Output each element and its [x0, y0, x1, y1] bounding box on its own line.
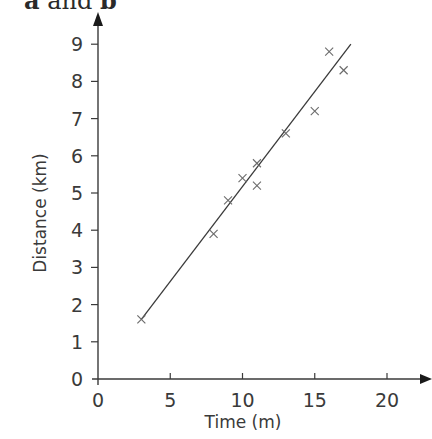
y-tick-label: 8	[71, 70, 83, 92]
y-tick-label: 4	[71, 219, 83, 241]
data-point-x-marker-icon	[137, 315, 145, 323]
x-tick-label: 5	[164, 389, 176, 411]
data-point-x-marker-icon	[224, 196, 232, 204]
data-point-x-marker-icon	[340, 66, 348, 74]
x-tick-label: 0	[92, 389, 104, 411]
y-axis-title: Distance (km)	[30, 153, 50, 272]
y-tick-label: 2	[71, 294, 83, 316]
y-tick-label: 0	[71, 368, 83, 390]
y-tick-label: 1	[71, 331, 83, 353]
x-tick-label: 10	[230, 389, 254, 411]
x-tick-label: 15	[303, 389, 327, 411]
data-point-x-marker-icon	[311, 107, 319, 115]
axes	[92, 12, 432, 385]
x-tick-label: 20	[375, 389, 399, 411]
x-axis-title: Time (m)	[204, 412, 282, 432]
y-tick-label: 9	[71, 33, 83, 55]
y-tick-label: 6	[71, 145, 83, 167]
data-point-x-marker-icon	[253, 182, 261, 190]
x-axis-arrow-icon	[420, 374, 432, 384]
axis-ticks: 012345678905101520	[71, 33, 399, 411]
data-point-x-marker-icon	[325, 48, 333, 56]
scatter-chart: 012345678905101520 Time (m) Distance (km…	[0, 0, 432, 439]
data-point-x-marker-icon	[210, 230, 218, 238]
y-tick-label: 5	[71, 182, 83, 204]
y-tick-label: 3	[71, 256, 83, 278]
data-point-x-marker-icon	[239, 174, 247, 182]
y-axis-arrow-icon	[93, 12, 103, 26]
y-tick-label: 7	[71, 108, 83, 130]
